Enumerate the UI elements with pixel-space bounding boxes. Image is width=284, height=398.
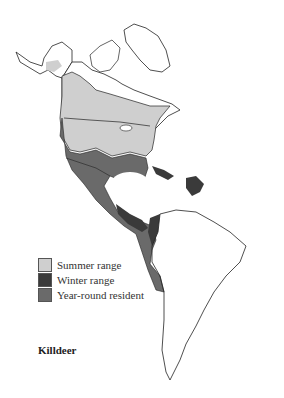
great-lakes [120,125,132,131]
arctic-islands [90,40,120,72]
south-america [152,210,246,380]
summer-range-swatch [38,258,52,272]
winter-range-cuba [186,176,204,196]
legend-label: Year-round resident [57,288,144,302]
alaska [16,42,72,78]
species-caption: Killdeer [38,344,77,356]
legend-item-winter-range: Winter range [38,273,144,287]
legend-item-year-round: Year-round resident [38,288,144,302]
legend: Summer range Winter range Year-round res… [38,258,144,303]
winter-range-swatch [38,273,52,287]
legend-label: Summer range [57,258,121,272]
legend-label: Winter range [57,273,114,287]
gulf-of-mexico [112,172,148,192]
winter-range-caribbean [152,166,174,180]
range-map [0,0,284,398]
greenland [124,24,170,72]
year-round-swatch [38,288,52,302]
legend-item-summer-range: Summer range [38,258,144,272]
